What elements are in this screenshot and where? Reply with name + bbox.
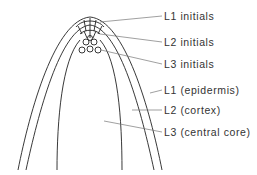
label-l3-initials: L3 initials [164,58,214,70]
l1-inner-boundary [26,25,154,170]
label-l2-cortex: L2 (cortex) [164,104,221,116]
label-l2-initials: L2 initials [164,36,214,48]
label-l3-central-core: L3 (central core) [164,126,251,138]
label-l1-initials: L1 initials [164,10,214,22]
l2-inner-boundary [57,40,122,170]
l1-outer-boundary [18,17,162,170]
label-l1-epidermis: L1 (epidermis) [164,84,240,96]
